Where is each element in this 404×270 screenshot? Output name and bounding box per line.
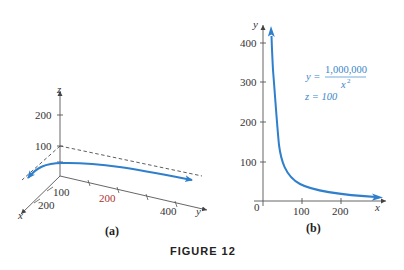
b-x-tick-label-200: 200 [332, 205, 349, 217]
x-axis-label: x [17, 209, 23, 221]
z-tick-label-200: 200 [35, 109, 52, 121]
x-tick-label-100: 100 [53, 186, 70, 198]
x-tick-label-200: 200 [38, 199, 55, 211]
panel-b-label: (b) [306, 221, 321, 235]
y-tick-label-200: 200 [99, 192, 116, 204]
b-origin-label: 0 [254, 201, 260, 213]
z-tick-label-100: 100 [35, 140, 52, 152]
equation-annotation: y = 1,000,000 x 2 z = 100 [304, 64, 367, 102]
equation-denominator: x [340, 79, 346, 90]
panel-a: z 200 100 100 200 x 200 400 y (a) [17, 83, 207, 238]
equation-lhs: y = [305, 71, 320, 82]
curve-helper [273, 86, 338, 196]
equation-exponent: 2 [347, 77, 351, 85]
b-x-tick-label-100: 100 [293, 205, 310, 217]
figure-canvas: z 200 100 100 200 x 200 400 y (a) 400 30… [0, 0, 404, 270]
equation-constraint: z = 100 [304, 91, 338, 102]
b-y-axis-label: y [252, 18, 258, 30]
y-axis [60, 176, 207, 210]
b-y-tick-label-400: 400 [240, 37, 257, 49]
equation-numerator: 1,000,000 [325, 64, 367, 75]
b-y-tick-label-300: 300 [240, 76, 257, 88]
panel-a-label: (a) [105, 224, 119, 238]
b-y-tick-label-200: 200 [240, 116, 257, 128]
y-axis-label: y [195, 205, 201, 217]
b-x-axis-label: x [374, 201, 380, 213]
dashed-plane-line-y [60, 146, 202, 176]
panel-b: 400 300 200 100 0 100 200 x y y = 1,000,… [240, 18, 386, 235]
curve-right-branch [62, 163, 192, 180]
b-y-tick-label-100: 100 [240, 156, 257, 168]
y-tick-label-400: 400 [160, 205, 177, 217]
z-axis-label: z [56, 83, 62, 95]
y-tick [146, 194, 148, 200]
b-curve-up-arrow [268, 26, 275, 37]
figure-caption: FIGURE 12 [170, 245, 236, 257]
b-curve [272, 36, 380, 197]
